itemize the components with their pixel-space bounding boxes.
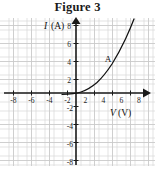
x-tick-label: -8 <box>10 96 17 105</box>
y-tick-label: 6 <box>67 40 71 49</box>
grid-lines-major <box>0 18 155 166</box>
y-axis-unit: (A) <box>51 20 64 32</box>
y-tick-label: -6 <box>67 140 74 149</box>
y-axis-title: I (A) <box>43 20 64 32</box>
figure-container: Figure 3 <box>0 0 155 174</box>
x-tick-label: 2 <box>84 96 88 105</box>
y-tick-label: -8 <box>67 158 74 167</box>
y-tick-label: 2 <box>67 76 71 85</box>
y-axis-arrow <box>72 17 81 24</box>
plot-area: -8 -6 -4 -2 2 4 6 8 8 6 4 2 -2 -4 -6 -8 <box>0 17 155 169</box>
x-tick-label: 6 <box>120 96 124 105</box>
graph-svg: -8 -6 -4 -2 2 4 6 8 8 6 4 2 -2 -4 -6 -8 <box>0 17 155 169</box>
figure-title: Figure 3 <box>0 0 155 15</box>
y-tick-label: -4 <box>67 122 74 131</box>
x-axis-title: V (V) <box>110 107 131 119</box>
curve-label-a: A <box>105 54 112 64</box>
grid-lines <box>0 18 155 166</box>
x-axis-unit: (V) <box>118 107 131 119</box>
y-tick-label: 4 <box>67 58 71 67</box>
x-tick-label: 4 <box>102 96 106 105</box>
y-tick-label: 8 <box>67 22 71 31</box>
x-tick-label: -4 <box>46 96 53 105</box>
x-axis-arrow <box>143 89 151 98</box>
x-tick-label: 8 <box>137 96 141 105</box>
y-tick-label: -2 <box>67 104 74 113</box>
x-tick-label: -6 <box>28 96 35 105</box>
x-axis-symbol: V <box>110 107 117 118</box>
